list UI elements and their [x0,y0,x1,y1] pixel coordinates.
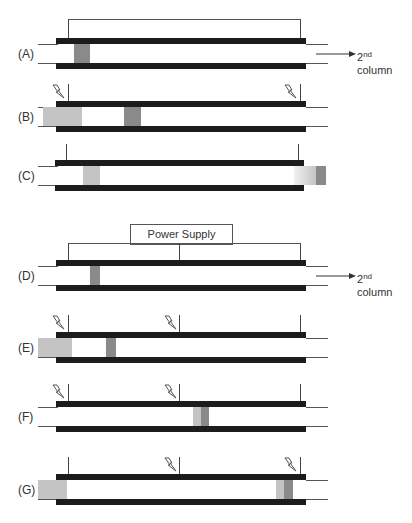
panel-label-g: (G) [18,483,35,497]
capillary-wall-top [56,474,306,480]
sample-band-light [193,407,201,426]
lightning-bolt-icon [52,315,66,331]
arrow-right-icon [316,50,356,58]
sample-band-dark [74,44,90,63]
capillary-outlet-top [306,338,328,339]
electrode-lead-right [300,315,301,332]
panel-label-d: (D) [18,269,35,283]
capillary-inlet-bottom [38,126,58,127]
power-supply-box: Power Supply [130,224,233,245]
second-column-note: 2nd column [357,48,392,77]
electrode-lead-left [68,457,69,474]
capillary-outlet-bottom [306,426,328,427]
second-column-word: column [357,286,392,298]
electrode-lead-center [179,457,180,474]
electrode-lead-right [298,144,299,160]
capillary-wall-bottom [56,63,306,69]
lightning-bolt-icon [164,315,178,331]
electrode-lead-right [300,243,301,260]
capillary-outlet-bottom [306,499,328,500]
capillary-inlet-bottom [38,285,58,286]
panel-label-c: (C) [18,169,35,183]
lightning-bolt-icon [52,384,66,400]
electrode-lead-center [179,243,180,260]
second-column-word: column [357,64,392,76]
capillary-outlet-bottom [306,63,328,64]
capillary-inlet-top [38,266,58,267]
power-supply-bracket [68,243,301,244]
capillary-outlet-bottom [306,126,328,127]
lightning-bolt-icon [284,84,298,100]
capillary-wall-top [56,38,306,44]
capillary-inlet-top [38,44,58,45]
capillary-wall-top [56,332,306,338]
electrode-lead-left [68,84,69,101]
sample-band-dark [124,107,141,126]
electrode-lead-center [179,315,180,332]
capillary-outlet-top [306,480,328,481]
sample-band-dark [201,407,209,426]
electrode-lead-right [300,84,301,101]
eluting-band-gradient [294,166,316,185]
panel-label-f: (F) [18,410,33,424]
capillary-outlet-bottom [306,357,328,358]
electrode-lead-left [68,19,69,38]
lightning-bolt-icon [52,84,66,100]
sample-band-light [83,166,100,185]
sample-band-light [38,338,72,357]
sample-band-light [43,107,82,126]
capillary-wall-bottom [56,426,306,432]
capillary-wall-bottom [56,285,306,291]
eluting-band-dark [316,166,326,185]
electrode-lead-right [300,19,301,38]
second-column-suffix: nd [363,272,372,281]
capillary-wall-top [56,101,306,107]
capillary-wall-bottom [56,499,306,505]
capillary-outlet-top [306,407,328,408]
capillary-inlet-bottom [38,426,58,427]
capillary-wall-top [56,401,306,407]
sample-band-dark [284,480,293,499]
lightning-bolt-icon [284,457,298,473]
capillary-outlet-bottom [306,285,328,286]
capillary-wall-bottom [56,357,306,363]
capillary-inlet-top [38,166,58,167]
electrode-lead-left [68,315,69,332]
capillary-outlet-top [306,107,328,108]
electrode-lead-left [68,384,69,401]
electrode-lead-right [300,457,301,474]
sample-band-light [276,480,284,499]
electrode-lead-left [68,243,69,260]
capillary-wall-bottom [55,185,304,191]
panel-label-b: (B) [18,110,34,124]
capillary-wall-bottom [56,126,306,132]
capillary-outlet-top [306,266,328,267]
capillary-outlet-top [306,44,328,45]
capillary-inlet-bottom [38,499,58,500]
sample-band-dark [90,266,100,285]
capillary-inlet-bottom [38,357,58,358]
electrode-lead-center [179,384,180,401]
panel-label-e: (E) [18,341,34,355]
capillary-inlet-top [38,407,58,408]
arrow-right-icon [316,272,356,280]
sample-band-light [38,480,67,499]
electrode-lead-left [66,144,67,160]
electrode-bracket-top [68,19,301,20]
second-column-note: 2nd column [357,270,392,299]
second-column-suffix: nd [363,50,372,59]
panel-label-a: (A) [18,47,34,61]
lightning-bolt-icon [164,384,178,400]
lightning-bolt-icon [164,457,178,473]
capillary-inlet-bottom [38,63,58,64]
electrode-lead-right [300,384,301,401]
sample-band-dark [106,338,116,357]
